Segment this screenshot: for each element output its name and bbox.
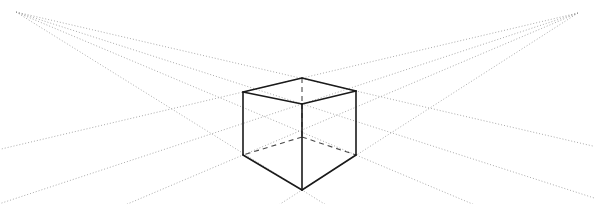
guide-lines-right-group — [0, 13, 578, 204]
guide-left-to-left-top — [16, 12, 594, 198]
cube-hidden-edges-group — [243, 78, 356, 155]
guide-right-to-right-bottom — [0, 13, 578, 204]
cube-visible-edge-right-top-to-front-top — [302, 91, 356, 104]
cube-visible-edge-left-top-to-back-top — [243, 78, 302, 92]
guide-right-to-right-top — [0, 13, 578, 204]
guide-left-to-left-bottom — [16, 12, 594, 204]
cube-hidden-edge-back-bottom-hidden-to-left-bottom — [243, 137, 302, 155]
cube-visible-edge-front-top-to-left-top — [243, 92, 302, 104]
vanishing-point-markers-group — [15, 11, 579, 14]
perspective-drawing-canvas — [0, 0, 594, 204]
cube-visible-edges-group — [243, 78, 356, 190]
cube-visible-edge-back-top-to-right-top — [302, 78, 356, 91]
cube-visible-edge-left-bottom-to-front-bottom — [243, 155, 302, 190]
guide-lines-left-group — [16, 12, 594, 204]
guide-left-to-center — [16, 12, 594, 204]
cube-hidden-edge-back-bottom-hidden-to-right-bottom — [302, 137, 356, 155]
perspective-cube-diagram — [0, 0, 594, 204]
guide-right-to-center — [0, 13, 578, 204]
cube-visible-edge-front-bottom-to-right-bottom — [302, 155, 356, 190]
